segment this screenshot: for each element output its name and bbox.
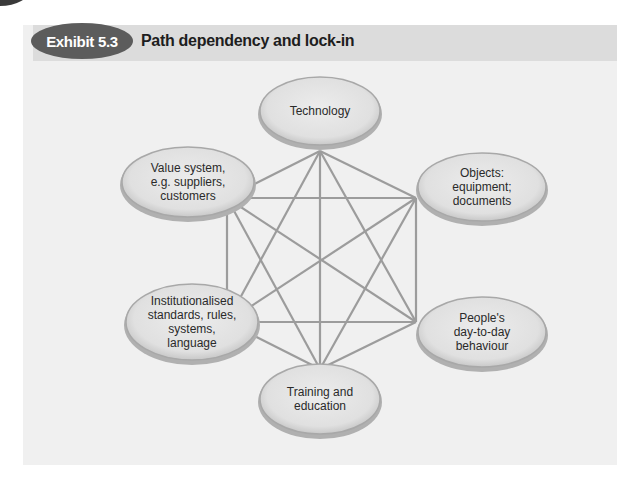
node-institutions: Institutionalised standards, rules, syst…: [148, 294, 237, 350]
network-diagram: [0, 0, 644, 489]
node-label-line: Objects:: [452, 166, 511, 180]
node-label-line: e.g. suppliers,: [151, 175, 226, 189]
node-label-line: behaviour: [454, 339, 511, 353]
node-label-line: equipment;: [452, 180, 511, 194]
node-label-line: standards, rules,: [148, 308, 237, 322]
node-label-line: day-to-day: [454, 325, 511, 339]
node-label-line: education: [287, 399, 353, 413]
node-label-line: Value system,: [151, 161, 226, 175]
node-behaviour: People's day-to-day behaviour: [454, 311, 511, 353]
node-label-line: documents: [452, 194, 511, 208]
node-label-line: customers: [151, 189, 226, 203]
node-label-line: systems,: [148, 322, 237, 336]
node-training: Training and education: [287, 385, 353, 413]
node-label-line: language: [148, 336, 237, 350]
node-label-line: Institutionalised: [148, 294, 237, 308]
node-technology: Technology: [290, 104, 351, 118]
node-value-system: Value system, e.g. suppliers, customers: [151, 161, 226, 203]
node-label-line: People's: [454, 311, 511, 325]
node-label-line: Technology: [290, 104, 351, 118]
node-objects: Objects: equipment; documents: [452, 166, 511, 208]
node-label-line: Training and: [287, 385, 353, 399]
